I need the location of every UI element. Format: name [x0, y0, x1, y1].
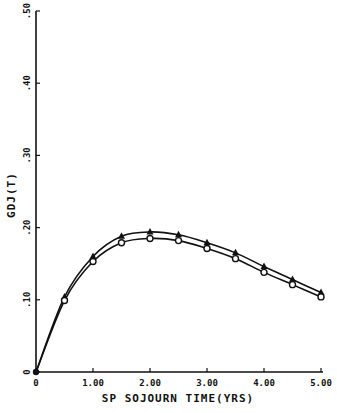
x-tick-label: 2.00 — [139, 378, 161, 388]
triangle-series — [36, 228, 325, 372]
x-axis-title: SP SOJOURN TIME(YRS) — [102, 392, 254, 405]
circle-series — [36, 235, 324, 372]
circle-marker — [62, 298, 68, 304]
circle-marker — [176, 238, 182, 244]
origin-marker — [33, 369, 39, 375]
series-line — [36, 238, 321, 372]
circle-marker — [204, 246, 210, 252]
x-tick-label: 5.00 — [310, 378, 332, 388]
x-axis-ticks: 01.002.003.004.005.00 — [33, 368, 332, 388]
y-tick-label: .10 — [22, 292, 32, 308]
circle-marker — [318, 294, 324, 300]
x-tick-label: 3.00 — [196, 378, 218, 388]
y-tick-label: .50 — [22, 3, 32, 19]
y-tick-label: .30 — [22, 147, 32, 163]
circle-marker — [147, 235, 153, 241]
y-axis-ticks: 0.10.20.30.40.50 — [22, 3, 40, 375]
series-line — [36, 232, 321, 372]
y-axis-title: GDJ(T) — [5, 172, 18, 218]
circle-marker — [290, 282, 296, 288]
x-tick-label: 4.00 — [253, 378, 275, 388]
x-tick-label: 1.00 — [82, 378, 104, 388]
chart-axes — [36, 11, 323, 372]
series-layer — [33, 228, 325, 375]
y-tick-label: .20 — [22, 219, 32, 235]
x-tick-label: 0 — [33, 378, 38, 388]
y-tick-label: .40 — [22, 75, 32, 91]
line-chart: 0.10.20.30.40.50 01.002.003.004.005.00 S… — [0, 0, 337, 413]
circle-marker — [119, 240, 125, 246]
circle-marker — [90, 259, 96, 265]
y-tick-label: 0 — [22, 369, 32, 374]
circle-marker — [233, 256, 239, 262]
circle-marker — [261, 269, 267, 275]
